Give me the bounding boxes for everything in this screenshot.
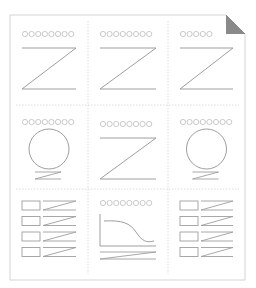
document-page-icon <box>0 0 256 288</box>
document-wireframe-illustration <box>0 0 256 288</box>
